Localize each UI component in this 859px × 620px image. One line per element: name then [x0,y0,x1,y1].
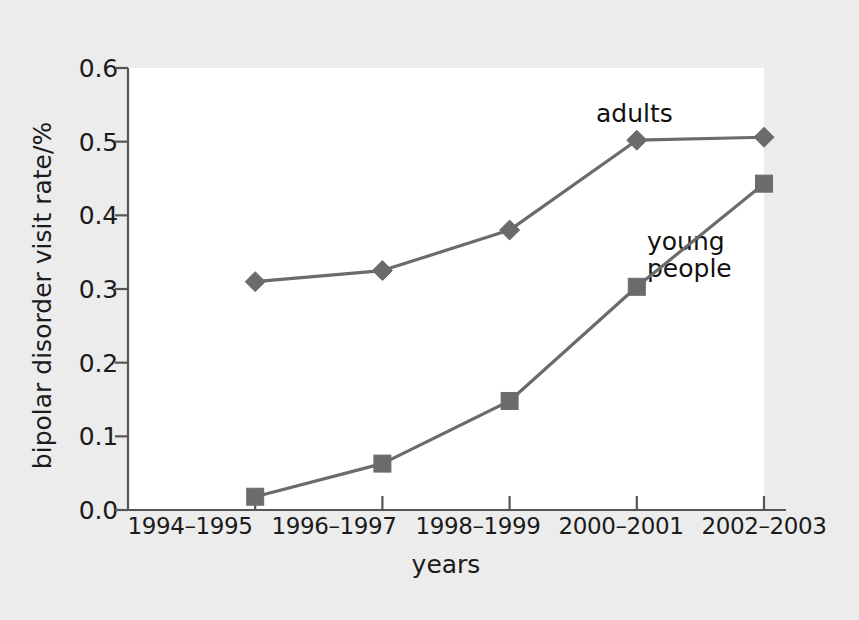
marker-young-people-0 [247,488,264,505]
chart-canvas [0,0,859,620]
axis-lines [128,68,786,510]
marker-adults-0 [245,272,265,292]
marker-adults-4 [754,127,774,147]
marker-young-people-2 [501,392,518,409]
marker-young-people-1 [374,455,391,472]
marker-adults-2 [500,220,520,240]
marker-young-people-4 [756,175,773,192]
series-line-adults [255,137,764,281]
axis-ticks [115,68,764,510]
marker-young-people-3 [628,278,645,295]
marker-adults-3 [627,130,647,150]
marker-adults-1 [372,261,392,281]
chart-figure: 0.6 0.5 0.4 0.3 0.2 0.1 0.0 1994–1995 19… [0,0,859,620]
data-series-layer [245,127,774,505]
